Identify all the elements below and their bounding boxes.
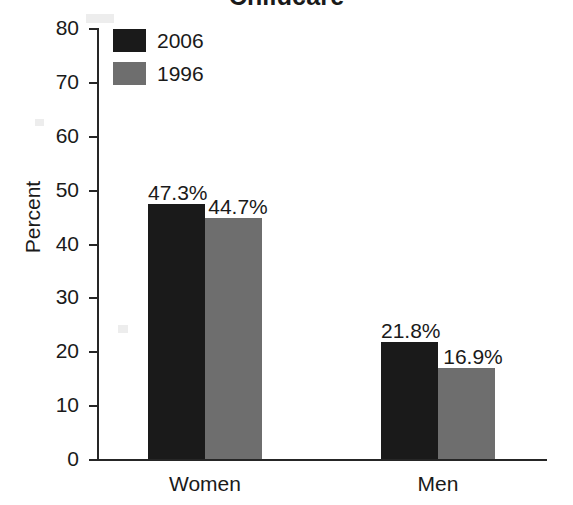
bar-men-2006[interactable]	[381, 342, 438, 459]
chart-legend: 2006 1996	[113, 28, 204, 94]
y-tick-20	[89, 351, 97, 353]
y-tick-label-80: 80	[37, 17, 79, 38]
y-tick-label-40: 40	[37, 233, 79, 254]
y-tick-label-60: 60	[37, 125, 79, 146]
y-tick-70	[89, 82, 97, 84]
y-tick-label-0: 0	[37, 448, 79, 469]
y-axis-line	[97, 28, 99, 461]
legend-swatch-2006	[113, 29, 146, 52]
legend-swatch-1996	[113, 62, 146, 85]
legend-label-2006: 2006	[157, 30, 204, 51]
legend-label-1996: 1996	[157, 63, 204, 84]
y-tick-50	[89, 190, 97, 192]
bar-women-2006[interactable]	[148, 204, 205, 459]
scan-artifact	[86, 14, 114, 23]
y-tick-label-70: 70	[37, 71, 79, 92]
y-tick-40	[89, 244, 97, 246]
y-tick-80	[89, 28, 97, 30]
legend-item-1996[interactable]: 1996	[113, 61, 204, 85]
bar-value-women-2006: 47.3%	[148, 182, 205, 203]
bar-women-1996[interactable]	[205, 218, 262, 459]
y-tick-label-50: 50	[37, 179, 79, 200]
y-tick-0	[89, 459, 97, 461]
y-tick-30	[89, 297, 97, 299]
legend-item-2006[interactable]: 2006	[113, 28, 204, 52]
y-tick-60	[89, 136, 97, 138]
bar-value-men-2006: 21.8%	[381, 320, 438, 341]
category-label-women: Women	[145, 472, 265, 496]
plot-area: Percent 80 70 60 50 40 30 20 10 0 47.3% …	[0, 0, 573, 505]
bar-value-women-1996: 44.7%	[205, 196, 271, 217]
chart-page: Childcare Percent 80 70 60 50 40 30 20 1…	[0, 0, 573, 505]
bar-men-1996[interactable]	[438, 368, 495, 459]
scan-artifact	[118, 325, 128, 333]
x-axis-line	[97, 459, 547, 461]
bar-value-men-1996: 16.9%	[440, 346, 506, 367]
y-tick-label-30: 30	[37, 286, 79, 307]
y-tick-label-20: 20	[37, 340, 79, 361]
category-label-men: Men	[378, 472, 498, 496]
y-axis-title: Percent	[21, 157, 45, 277]
y-tick-label-10: 10	[37, 394, 79, 415]
y-tick-10	[89, 405, 97, 407]
